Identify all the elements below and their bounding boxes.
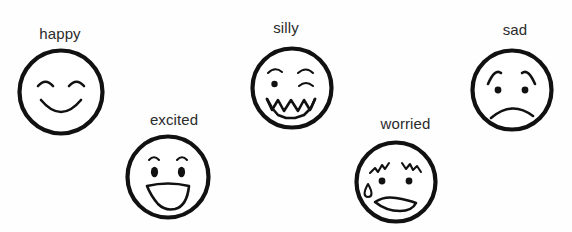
eye-left-dot (379, 178, 386, 185)
face-label-sad: sad (500, 21, 530, 38)
eye-left-dot (495, 87, 502, 94)
face-drawing-silly (250, 46, 334, 130)
face-drawing-happy (17, 48, 105, 136)
face-drawing-sad (470, 48, 554, 132)
face-label-worried: worried (373, 115, 438, 132)
face-drawing-worried (354, 140, 438, 224)
eye-left-dot (271, 81, 277, 87)
emotion-faces-illustration: happy excited silly (0, 0, 572, 232)
face-label-happy: happy (35, 25, 85, 42)
face-label-silly: silly (268, 19, 304, 36)
eye-right-dot (406, 178, 413, 185)
face-outline-circle (253, 49, 332, 128)
eye-left-oval (151, 167, 158, 177)
eye-right-dot (522, 87, 529, 94)
face-label-excited: excited (141, 111, 207, 128)
face-outline-circle (473, 51, 552, 130)
eye-right-oval (178, 167, 185, 177)
face-outline-circle (20, 51, 103, 134)
face-drawing-excited (125, 134, 211, 220)
